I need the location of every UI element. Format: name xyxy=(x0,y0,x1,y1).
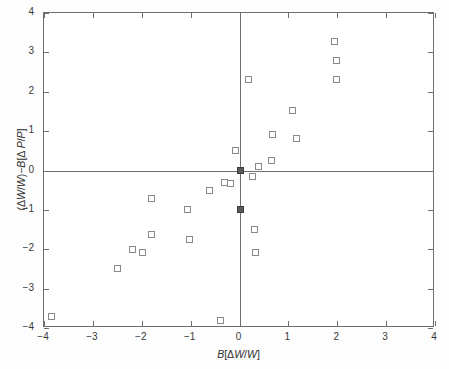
y-tick-left xyxy=(44,171,49,172)
y-tick-right xyxy=(428,52,433,53)
x-tick-top xyxy=(337,13,338,18)
data-point-marker xyxy=(245,76,252,83)
y-tick-right xyxy=(428,210,433,211)
y-tick-left xyxy=(44,52,49,53)
x-tick-bottom xyxy=(337,321,338,326)
y-tick-left xyxy=(44,13,49,14)
y-tick-left xyxy=(44,131,49,132)
x-tick-label: 0 xyxy=(219,331,259,343)
data-point-marker xyxy=(48,313,55,320)
x-tick-bottom xyxy=(386,321,387,326)
data-point-marker xyxy=(217,317,224,324)
data-point-marker xyxy=(114,265,121,272)
x-tick-bottom xyxy=(191,321,192,326)
y-tick-right xyxy=(428,171,433,172)
x-tick-top xyxy=(93,13,94,18)
data-point-marker xyxy=(232,147,239,154)
x-tick-label: 2 xyxy=(316,331,356,343)
x-tick-top xyxy=(435,13,436,18)
y-tick-right xyxy=(428,92,433,93)
plot-frame xyxy=(43,12,434,327)
y-tick-left xyxy=(44,289,49,290)
x-tick-label: −3 xyxy=(72,331,112,343)
data-point-marker xyxy=(237,167,244,174)
x-tick-top xyxy=(142,13,143,18)
data-point-marker xyxy=(227,180,234,187)
x-tick-top xyxy=(191,13,192,18)
data-point-marker xyxy=(333,57,340,64)
data-point-marker xyxy=(333,76,340,83)
y-tick-right xyxy=(428,289,433,290)
y-tick-left xyxy=(44,92,49,93)
x-tick-bottom xyxy=(288,321,289,326)
data-point-marker xyxy=(148,195,155,202)
data-point-marker xyxy=(252,249,259,256)
data-point-marker xyxy=(184,206,191,213)
data-point-marker xyxy=(129,246,136,253)
x-tick-label: 1 xyxy=(267,331,307,343)
data-point-marker xyxy=(268,157,275,164)
data-point-marker xyxy=(139,249,146,256)
data-point-marker xyxy=(331,38,338,45)
y-tick-left xyxy=(44,249,49,250)
data-point-marker xyxy=(289,107,296,114)
x-tick-label: 4 xyxy=(414,331,449,343)
data-point-marker xyxy=(186,236,193,243)
data-point-marker xyxy=(269,131,276,138)
y-axis-label: (ΔW/W)−B[Δ P/P] xyxy=(14,12,28,327)
data-point-marker xyxy=(255,163,262,170)
data-point-marker xyxy=(206,187,213,194)
x-tick-bottom xyxy=(142,321,143,326)
x-tick-label: −2 xyxy=(121,331,161,343)
x-tick-top xyxy=(240,13,241,18)
data-point-marker xyxy=(148,231,155,238)
x-tick-bottom xyxy=(44,321,45,326)
x-tick-label: −1 xyxy=(170,331,210,343)
x-tick-bottom xyxy=(240,321,241,326)
plot-area xyxy=(44,13,433,326)
x-tick-bottom xyxy=(93,321,94,326)
x-tick-bottom xyxy=(435,321,436,326)
y-tick-right xyxy=(428,328,433,329)
y-tick-right xyxy=(428,131,433,132)
y-tick-left xyxy=(44,210,49,211)
x-axis-label: B[ΔW/W] xyxy=(43,348,434,360)
data-point-marker xyxy=(293,135,300,142)
y-tick-right xyxy=(428,249,433,250)
data-point-marker xyxy=(237,206,244,213)
y-tick-right xyxy=(428,13,433,14)
x-tick-top xyxy=(288,13,289,18)
data-point-marker xyxy=(251,226,258,233)
x-tick-label: 3 xyxy=(365,331,405,343)
data-point-marker xyxy=(249,173,256,180)
scatter-plot-figure: −4−3−2−101234 43210−1−2−3−4 B[ΔW/W] (ΔW/… xyxy=(0,0,449,369)
y-tick-left xyxy=(44,328,49,329)
x-tick-top xyxy=(386,13,387,18)
